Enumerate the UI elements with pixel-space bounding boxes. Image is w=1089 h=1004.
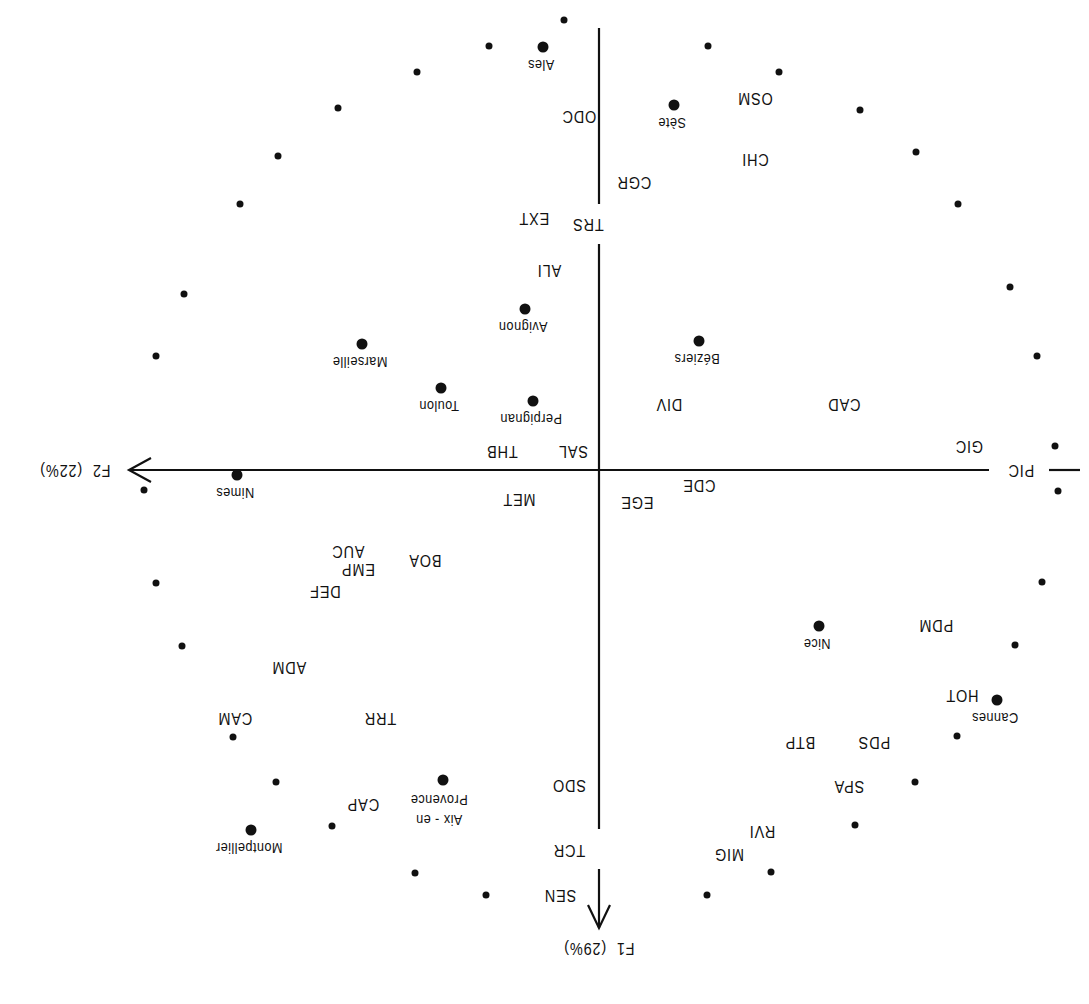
circle-point (955, 201, 962, 208)
f1-axis-label: F1 (29%) (563, 940, 634, 957)
city-marker (694, 336, 705, 347)
circle-point (561, 17, 568, 24)
circle-point (273, 779, 280, 786)
circle-point (1034, 353, 1041, 360)
sector-label: GIC (955, 438, 983, 455)
city-label: Avignon (499, 320, 548, 335)
sector-label: ALI (537, 262, 561, 279)
city-marker (520, 304, 531, 315)
circle-point (1039, 579, 1046, 586)
city-marker (992, 695, 1003, 706)
sector-label: RVI (749, 823, 775, 840)
sector-label: ODC (562, 108, 597, 125)
rotated-figure: F1 (29%) F2 (22%) AlesSèteAvignonBéziers… (0, 0, 1089, 1004)
city-marker (232, 470, 243, 481)
circle-point (486, 43, 493, 50)
circle-point (335, 105, 342, 112)
city-label: Aix - en (416, 813, 463, 828)
sector-label: DEF (309, 583, 340, 600)
sector-label: CDE (682, 477, 715, 494)
sector-label: BOA (408, 552, 441, 569)
circle-point (230, 734, 237, 741)
sector-label: PIC (1008, 462, 1035, 479)
circle-point (954, 733, 961, 740)
circle-point (1052, 443, 1059, 450)
sector-label: SPA (834, 778, 864, 795)
city-label: Toulon (419, 399, 459, 414)
city-label: Ales (528, 58, 555, 73)
city-marker (246, 825, 257, 836)
circle-point (705, 43, 712, 50)
sector-label: SDO (552, 777, 586, 794)
sector-label: EXT (519, 210, 550, 227)
circle-point (414, 69, 421, 76)
city-label: Béziers (674, 352, 720, 367)
city-marker (528, 396, 539, 407)
sector-label: PDS (858, 734, 890, 751)
city-label: Provence (410, 793, 467, 808)
sector-label: DIV (656, 396, 683, 413)
sector-label: ADM (272, 659, 307, 676)
sector-label: TCR (553, 842, 585, 859)
sector-label: AUC (331, 543, 364, 560)
city-label: Montpellier (215, 841, 282, 856)
f2-axis-label: F2 (22%) (39, 462, 110, 479)
circle-point (776, 69, 783, 76)
sector-label: CAD (827, 396, 860, 413)
circle-point (1007, 284, 1014, 291)
circle-point (483, 892, 490, 899)
city-label: Nimes (216, 486, 254, 501)
circle-point (141, 487, 148, 494)
city-marker (357, 339, 368, 350)
city-marker (814, 621, 825, 632)
circle-point (768, 869, 775, 876)
circle-point (153, 353, 160, 360)
sector-label: SEN (544, 887, 576, 904)
sector-label: THB (486, 443, 517, 460)
axes-lines (0, 0, 1089, 1004)
circle-point (704, 892, 711, 899)
factor-map: F1 (29%) F2 (22%) AlesSèteAvignonBéziers… (0, 0, 1089, 1004)
city-marker (438, 775, 449, 786)
sector-label: CAP (347, 796, 379, 813)
city-marker (669, 100, 680, 111)
circle-point (181, 291, 188, 298)
sector-label: CHI (741, 151, 768, 168)
sector-label: TRR (364, 710, 396, 727)
circle-point (329, 823, 336, 830)
circle-point (275, 153, 282, 160)
sector-label: MET (502, 491, 535, 508)
circle-point (913, 149, 920, 156)
circle-point (179, 643, 186, 650)
sector-label: SAL (558, 443, 588, 460)
city-marker (538, 42, 549, 53)
circle-point (912, 779, 919, 786)
city-label: Nice (803, 637, 830, 652)
circle-point (1012, 642, 1019, 649)
sector-label: EMP (341, 561, 375, 578)
city-label: Sète (658, 116, 686, 131)
sector-label: CAM (218, 710, 253, 727)
circle-point (153, 580, 160, 587)
circle-point (237, 201, 244, 208)
circle-point (852, 822, 859, 829)
sector-label: OSM (737, 90, 772, 107)
city-label: Marseille (333, 355, 388, 370)
sector-label: BTP (785, 734, 816, 751)
city-label: Perpignan (500, 412, 562, 427)
city-marker (436, 383, 447, 394)
sector-label: EGE (620, 494, 653, 511)
sector-label: MIG (714, 846, 744, 863)
sector-label: TRS (572, 216, 603, 233)
sector-label: CGR (617, 174, 652, 191)
sector-label: HOT (945, 687, 978, 704)
circle-point (1055, 488, 1062, 495)
sector-label: PDM (919, 617, 954, 634)
city-label: Cannes (972, 711, 1018, 726)
circle-point (857, 107, 864, 114)
circle-point (412, 870, 419, 877)
